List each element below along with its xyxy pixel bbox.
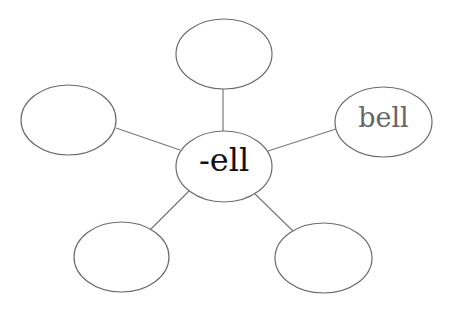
spoke-node-right-label: bell — [335, 102, 432, 133]
edge-bottom-right — [255, 194, 293, 231]
spoke-node-bottom-left — [74, 222, 169, 292]
edge-right — [268, 129, 336, 151]
spoke-node-bottom-right — [275, 223, 372, 293]
center-node-label: -ell — [176, 141, 272, 179]
spoke-node-top — [176, 19, 272, 89]
edge-bottom-left — [150, 191, 189, 230]
edge-left — [116, 128, 180, 150]
spoke-node-left — [21, 85, 116, 155]
